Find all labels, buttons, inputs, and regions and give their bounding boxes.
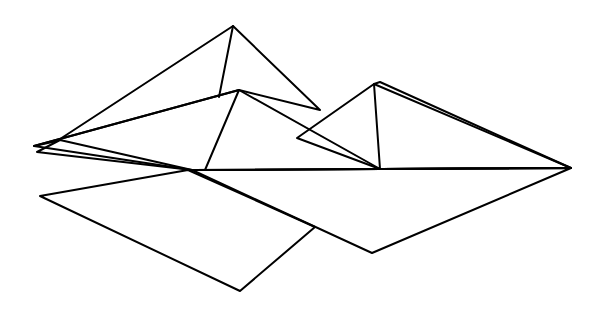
- light-gray-pyramid-crease: [219, 26, 233, 97]
- light-gray-pyramid: [34, 26, 320, 146]
- dark-gray-triangle-crease: [205, 90, 239, 170]
- white-lower-triangle: [192, 168, 571, 253]
- diagram-canvas: [0, 0, 605, 315]
- horizontal-fold-line: [192, 168, 571, 170]
- white-upper-diamond: [297, 84, 571, 169]
- folded-paper-figure: [0, 0, 605, 315]
- dark-gray-lower-quad: [40, 170, 315, 291]
